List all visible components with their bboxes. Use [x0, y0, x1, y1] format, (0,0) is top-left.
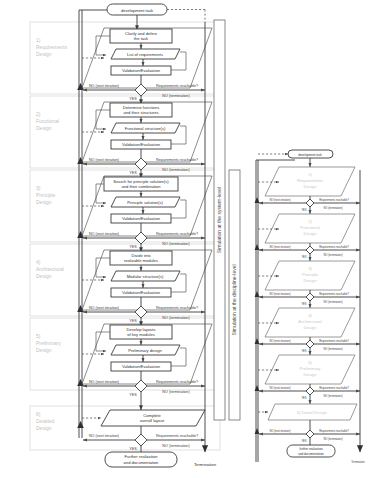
artifact-label: List of requirements [127, 52, 163, 57]
r-rail-arrow-4 [255, 338, 260, 344]
section-label-principle-design: 3) Principle Design [36, 185, 55, 205]
swimlane-discipline-level: Simulation at the discipline-level [229, 170, 240, 420]
activity-label-line1: Determine functions [123, 105, 159, 110]
r-stage-requirements-design: 1) Requirements Design Requirements reac… [258, 167, 360, 214]
r-stage-line3: Design [303, 231, 317, 236]
yes-label: YES [129, 393, 137, 397]
no-iteration-label: NO (next iteration) [89, 232, 119, 236]
yes-label: YES [129, 97, 137, 101]
svg-text:Design: Design [36, 347, 52, 353]
r-yes-label: YES [301, 302, 306, 306]
decision-label: Requirements reachable? [156, 158, 198, 162]
r-decision-label: Requirements reachable? [319, 292, 349, 296]
termination-left: Termination [194, 22, 217, 467]
validation-label: Validation/Evaluation [122, 142, 161, 147]
no-iteration-label: NO (next iteration) [89, 158, 119, 162]
activity-label-line2: and their combination [121, 184, 161, 189]
validation-label: Validation/Evaluation [122, 290, 161, 295]
stage-principle-design: Search for principle solution(s) and the… [82, 176, 212, 252]
r-stage-line3: Design [303, 372, 317, 377]
svg-text:Design: Design [36, 273, 52, 279]
start-node: development task [107, 4, 205, 30]
start-node-label: development task [121, 8, 154, 13]
r-final-node: further realization and documentation [287, 445, 335, 457]
stage-functional-design: Determine functions and their structures… [82, 102, 212, 178]
activity-label-line1: Search for principle solution(s) [113, 179, 169, 184]
final-node: Further realization and documentation [105, 452, 177, 467]
r-stage-line1: 3) [308, 266, 312, 271]
decision-label: Requirements reachable? [156, 434, 198, 438]
r-decision-label: Requirements reachable? [319, 245, 349, 249]
decision-label: Requirements reachable? [156, 84, 198, 88]
r-rail-arrow-6 [255, 428, 260, 434]
no-termination-label: NO (termination) [162, 168, 189, 172]
yes-label: YES [129, 447, 137, 451]
r-stage-preliminary-design: 5) Preliminary Design Requirements reach… [258, 355, 360, 404]
r-termination-label: Termination [351, 460, 365, 464]
r-yes-label: YES [301, 255, 306, 259]
svg-text:Principle: Principle [36, 192, 55, 198]
rail-arrow-6 [77, 421, 84, 428]
r-no-iteration-label: NO (next iteration) [269, 245, 290, 249]
r-yes-label: YES [301, 439, 306, 443]
no-iteration-label: NO (next iteration) [89, 434, 119, 438]
decision-label: Requirements reachable? [156, 232, 198, 236]
activity-label-line2: overall layout [140, 418, 165, 423]
decision-label: Requirements reachable? [156, 380, 198, 384]
svg-text:Detailed: Detailed [36, 418, 55, 424]
section-label-line1: 1) [36, 37, 41, 43]
r-yes-label: YES [301, 208, 306, 212]
r-stage-functional-design: 2) Functional Design Requirements reacha… [258, 214, 360, 261]
activity-label-line1: Complete [143, 413, 161, 418]
svg-text:Design: Design [36, 425, 52, 431]
r-decision-label: Requirements reachable? [319, 339, 349, 343]
termination-label: Termination [194, 462, 217, 467]
svg-text:3): 3) [36, 185, 41, 191]
r-no-termination-label: NO (termination) [323, 206, 342, 210]
final-node-line2: and documentation [124, 460, 160, 465]
r-yes-label: YES [301, 396, 306, 400]
validation-label: Validation/Evaluation [122, 68, 161, 73]
r-stage-line1: 4) [308, 313, 312, 318]
svg-text:5): 5) [36, 333, 41, 339]
r-stage-line2: Principle [302, 272, 319, 277]
r-decision-label: Requirements reachable? [319, 198, 349, 202]
section-label-detailed-design: 6) Detailed Design [36, 411, 55, 431]
r-stage-line3: Design [303, 184, 317, 189]
swimlane-system-level: Simulation at the system-level [214, 20, 225, 420]
activity-label-line2: realizable modules [124, 258, 158, 263]
svg-text:6): 6) [36, 411, 41, 417]
r-stage-line3: Design [303, 278, 317, 283]
r-no-termination-label: NO (termination) [323, 300, 342, 304]
r-stage-line1: 1) [308, 172, 312, 177]
r-stage-line1: 5) [308, 360, 312, 365]
stage-detailed-design: Complete overall layout Requirements rea… [82, 410, 205, 452]
no-termination-label: NO (termination) [162, 94, 189, 98]
activity-label-line1: Clarify and define [125, 31, 158, 36]
r-final-node-line1: further realization [299, 447, 323, 451]
section-label-preliminary-design: 5) Preliminary Design [36, 333, 62, 353]
svg-text:Design: Design [36, 125, 52, 131]
activity-label-line1: Divide into [131, 253, 151, 258]
artifact-label: Principle solution(s) [127, 200, 163, 205]
no-termination-label: NO (termination) [162, 390, 189, 394]
section-label-line3: Design [36, 51, 52, 57]
svg-text:4): 4) [36, 259, 41, 265]
r-yes-label: YES [301, 349, 306, 353]
swimlane-label-discipline-level: Simulation at the discipline-level [231, 264, 237, 335]
artifact-label: Preliminary design [128, 348, 162, 353]
r-no-termination-label: NO (termination) [323, 394, 342, 398]
no-termination-label: NO (termination) [162, 316, 189, 320]
artifact-label: Functional structure(s) [125, 126, 166, 131]
r-start-node: development task [258, 150, 333, 167]
yes-label: YES [129, 245, 137, 249]
r-decision-label: Requirements reachable? [319, 429, 349, 433]
no-iteration-label: NO (next iteration) [89, 380, 119, 384]
r-rail-arrow-3 [255, 291, 260, 297]
svg-text:Architectural: Architectural [36, 266, 64, 272]
section-label-functional-design: 2) Functional Design [36, 111, 59, 131]
no-termination-label: NO (termination) [162, 242, 189, 246]
r-no-iteration-label: NO (next iteration) [269, 339, 290, 343]
final-node-line1: Further realization [125, 454, 159, 459]
svg-text:Preliminary: Preliminary [36, 340, 62, 346]
